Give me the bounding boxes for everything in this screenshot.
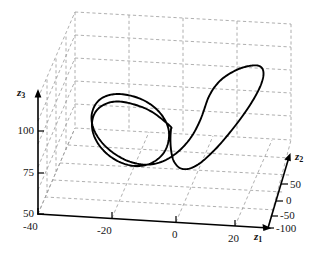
tick-label-z2-50: 50 <box>290 178 301 190</box>
figure-3d-phase-portrait: z3 z1 z2 100 75 50 -40 -20 0 20 50 0 -50… <box>0 0 321 257</box>
axis-z1-line <box>38 214 268 228</box>
tick-label-z3-75: 75 <box>4 166 34 178</box>
z3-arrow-icon <box>35 89 42 98</box>
axis-arrowheads <box>35 89 291 231</box>
tick-label-z1-20: 20 <box>228 232 239 244</box>
trajectory-curve <box>91 65 263 169</box>
tick-label-z1-m20: -20 <box>97 224 112 236</box>
floor-grid <box>38 128 291 228</box>
axis-title-z3: z3 <box>17 86 25 98</box>
tick-label-z2-m50: -50 <box>280 209 295 221</box>
tick-label-z1-0: 0 <box>172 228 178 240</box>
axis-title-z1: z1 <box>254 230 262 242</box>
plot-canvas <box>0 0 321 257</box>
axis-title-z2: z2 <box>295 150 303 162</box>
tick-label-z3-100: 100 <box>4 124 34 136</box>
tick-label-z2-0: 0 <box>286 194 292 206</box>
tick-label-z3-50: 50 <box>4 207 34 219</box>
tick-label-z2-m100: -100 <box>276 222 296 234</box>
back-wall-grid <box>75 12 291 140</box>
left-wall-grid <box>38 12 75 214</box>
tick-label-z1-m40: -40 <box>23 220 38 232</box>
